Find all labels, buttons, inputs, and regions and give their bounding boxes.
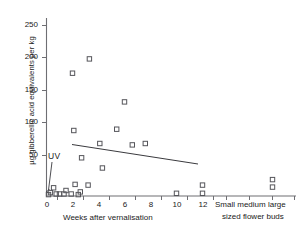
data-point	[174, 191, 178, 195]
data-point	[200, 183, 204, 187]
data-point	[72, 128, 76, 132]
data-point	[200, 191, 204, 195]
data-point	[51, 186, 55, 190]
data-point	[122, 100, 126, 104]
data-point	[70, 71, 74, 75]
data-point	[98, 141, 102, 145]
flower-bud-tick-marks	[227, 196, 295, 200]
data-point	[86, 183, 90, 187]
data-point	[130, 143, 134, 147]
plot-canvas	[0, 0, 302, 236]
data-point	[115, 127, 119, 131]
data-point	[143, 141, 147, 145]
data-point-category	[270, 185, 274, 189]
y-tick-marks	[42, 26, 47, 156]
data-point	[79, 156, 83, 160]
data-point-category	[270, 177, 274, 181]
data-point	[100, 166, 104, 170]
chart-figure: µg gibberellic acid equivalents per kg 2…	[0, 0, 302, 236]
data-markers	[46, 57, 274, 197]
data-point	[73, 182, 77, 186]
data-point	[87, 57, 91, 61]
